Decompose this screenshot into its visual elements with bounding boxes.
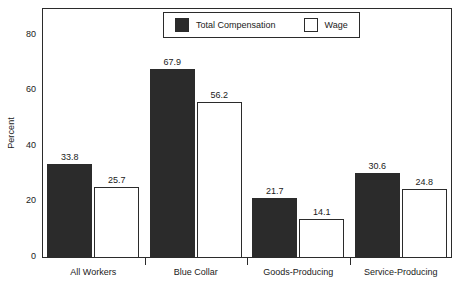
chart-legend: Total CompensationWage xyxy=(163,12,360,38)
x-axis-label-service-producing: Service-Producing xyxy=(364,267,438,277)
bar-chart: Percent 020406080 33.825.767.956.221.714… xyxy=(0,0,468,293)
x-axis: All WorkersBlue CollarGoods-ProducingSer… xyxy=(42,258,452,288)
x-axis-label-blue-collar: Blue Collar xyxy=(174,267,218,277)
bar-wage: 14.1 xyxy=(299,219,344,258)
legend-label: Wage xyxy=(325,20,348,30)
bar-wage: 25.7 xyxy=(94,187,139,258)
plot-area: 33.825.767.956.221.714.130.624.8 xyxy=(42,8,452,258)
bar-value-label: 56.2 xyxy=(210,90,228,100)
bar-total-compensation: 21.7 xyxy=(252,198,297,258)
bar-value-label: 24.8 xyxy=(415,177,433,187)
bar-wage: 24.8 xyxy=(402,189,447,258)
x-axis-tick-mark xyxy=(247,258,248,265)
x-axis-tick-mark xyxy=(145,258,146,265)
legend-entry: Wage xyxy=(304,18,348,32)
y-axis-title: Percent xyxy=(6,103,16,163)
filled-square-icon xyxy=(175,18,189,32)
bar-total-compensation: 67.9 xyxy=(150,69,195,258)
bar-value-label: 14.1 xyxy=(313,207,331,217)
x-axis-label-goods-producing: Goods-Producing xyxy=(263,267,333,277)
bar-value-label: 30.6 xyxy=(368,161,386,171)
x-axis-label-all-workers: All Workers xyxy=(70,267,116,277)
bar-value-label: 25.7 xyxy=(108,175,126,185)
hollow-square-icon xyxy=(304,18,318,32)
bar-value-label: 21.7 xyxy=(266,186,284,196)
legend-label: Total Compensation xyxy=(196,20,276,30)
y-axis-tick-label: 60 xyxy=(0,84,36,94)
bar-wage: 56.2 xyxy=(197,102,242,258)
bar-value-label: 33.8 xyxy=(61,152,79,162)
legend-entry: Total Compensation xyxy=(175,18,276,32)
bar-value-label: 67.9 xyxy=(163,57,181,67)
y-axis-tick-label: 80 xyxy=(0,29,36,39)
y-axis-tick-label: 40 xyxy=(0,140,36,150)
x-axis-tick-mark xyxy=(350,258,351,265)
y-axis-tick-label: 0 xyxy=(0,251,36,261)
bar-total-compensation: 30.6 xyxy=(355,173,400,258)
bar-total-compensation: 33.8 xyxy=(47,164,92,258)
y-axis-tick-label: 20 xyxy=(0,195,36,205)
